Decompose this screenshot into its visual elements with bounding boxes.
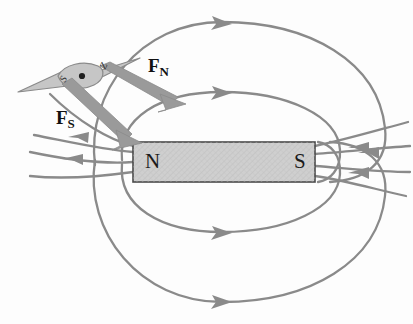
force-north-symbol: F [148, 55, 160, 76]
force-south-subscript: S [68, 116, 75, 131]
force-north-subscript: N [160, 64, 169, 79]
bar-magnet-texture-overlay [133, 142, 315, 182]
arrowhead-left-3-icon [62, 154, 83, 165]
compass-pivot-dot-icon [79, 73, 85, 79]
force-south-label: FS [56, 108, 75, 130]
force-south-symbol: F [56, 107, 68, 128]
bar-magnet [133, 142, 315, 182]
magnet-north-pole-label: N [145, 151, 160, 172]
magnetic-field-diagram [0, 0, 413, 324]
magnet-south-pole-label: S [294, 151, 306, 172]
field-line-right-4 [315, 176, 406, 196]
field-line-left-4 [30, 172, 133, 178]
force-north-label: FN [148, 56, 169, 78]
